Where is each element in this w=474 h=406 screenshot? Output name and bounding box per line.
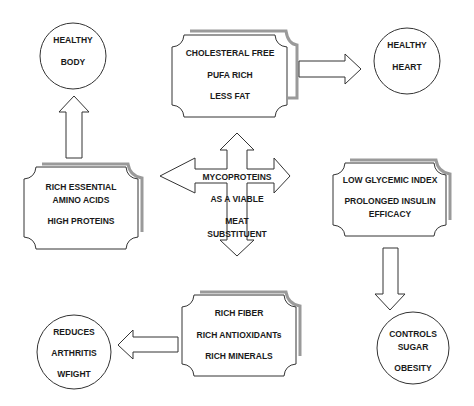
center-label-line-4: SUBSTITUENT xyxy=(207,229,267,239)
left-box-line-1: RICH ESSENTIAL xyxy=(46,182,117,192)
controls-line-2: SUGAR xyxy=(398,342,429,352)
center-label-line-2: AS A VIABLE xyxy=(210,194,263,204)
bottom-box-line-3: RICH MINERALS xyxy=(205,351,273,361)
left-box-line-3: HIGH PROTEINS xyxy=(47,216,114,226)
arrow-right-to-healthy-heart xyxy=(299,54,361,84)
bottom-box-line-2: RICH ANTIOXIDANTs xyxy=(197,330,282,340)
arrow-down-to-controls xyxy=(375,248,405,310)
top-box-line-3: LESS FAT xyxy=(210,91,250,101)
controls-line-3: OBESITY xyxy=(394,363,431,373)
reduces-line-1: REDUCES xyxy=(53,327,95,337)
right-box-line-2: PROLONGED INSULIN xyxy=(344,196,435,206)
right-box-line-1: LOW GLYCEMIC INDEX xyxy=(343,175,438,185)
reduces-line-3: WFIGHT xyxy=(57,369,91,379)
circle-healthy-heart xyxy=(374,28,440,94)
healthy-heart-line-2: HEART xyxy=(392,62,421,72)
left-box-line-2: AMINO ACIDS xyxy=(53,195,110,205)
reduces-line-2: ARTHRITIS xyxy=(51,348,96,358)
arrow-up-to-healthy-body xyxy=(59,96,89,158)
top-box-line-1: CHOLESTERAL FREE xyxy=(186,48,275,58)
bottom-box-line-1: RICH FIBER xyxy=(215,308,264,318)
healthy-body-line-2: BODY xyxy=(61,57,86,67)
top-box-line-2: PUFA RICH xyxy=(207,70,253,80)
box-left xyxy=(24,164,142,249)
healthy-body-line-1: HEALTHY xyxy=(53,35,93,45)
arrow-left-to-reduces xyxy=(118,330,178,359)
center-label-line-1: MYCOPROTEINS xyxy=(203,172,272,182)
healthy-heart-line-1: HEALTHY xyxy=(387,40,427,50)
circle-healthy-body xyxy=(40,23,106,89)
center-label-line-3: MEAT xyxy=(225,216,248,226)
right-box-line-3: EFFICACY xyxy=(369,209,412,219)
controls-line-1: CONTROLS xyxy=(389,329,437,339)
